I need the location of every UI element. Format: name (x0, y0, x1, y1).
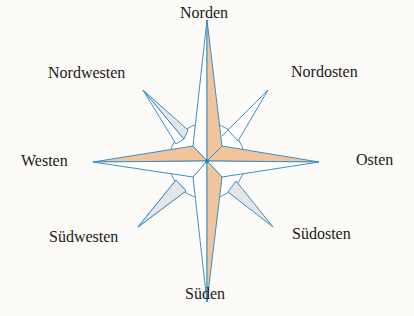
label-northeast: Nordosten (291, 63, 358, 81)
label-southeast: Südosten (292, 225, 351, 243)
label-northwest: Nordwesten (48, 64, 125, 82)
label-east: Osten (356, 151, 393, 169)
label-west: Westen (21, 152, 68, 170)
label-south: Süden (185, 285, 225, 303)
compass-rose-diagram: Norden Nordwesten Nordosten Westen Osten… (0, 0, 414, 316)
label-north: Norden (180, 4, 228, 22)
label-southwest: Südwesten (49, 228, 118, 246)
